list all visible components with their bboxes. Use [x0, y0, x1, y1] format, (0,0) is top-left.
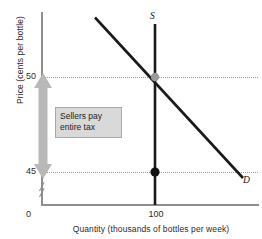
chart-curves-layer [0, 0, 262, 239]
annotation-line-2: entire tax [60, 122, 117, 133]
supply-curve-label: S [150, 11, 155, 21]
seller-price-point-marker [150, 167, 159, 176]
supply-demand-chart: Price (cents per bottle) Quantity (thous… [0, 0, 262, 239]
demand-curve [95, 18, 243, 179]
sellers-pay-entire-tax-box: Sellers pay entire tax [55, 107, 122, 138]
demand-curve-label: D [243, 175, 250, 185]
equilibrium-point-marker [151, 73, 159, 81]
annotation-line-1: Sellers pay [60, 111, 117, 122]
sellers-pay-entire-tax-arrow [34, 73, 52, 179]
